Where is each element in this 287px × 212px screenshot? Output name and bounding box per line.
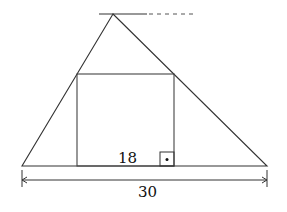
base-length-label: 30 [138, 183, 157, 201]
triangle [22, 14, 267, 166]
right-angle-dot [166, 158, 169, 161]
square-side-label: 18 [118, 149, 137, 167]
triangle-square-diagram: 18 30 [0, 0, 287, 212]
